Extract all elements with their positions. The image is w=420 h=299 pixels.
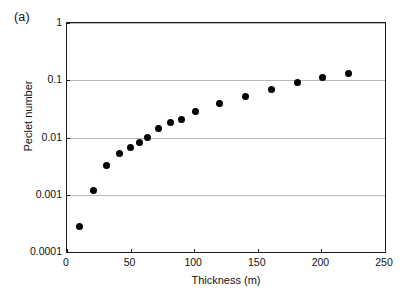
x-tick-label: 0: [63, 256, 69, 268]
gridline: [67, 23, 385, 24]
figure-panel: (a) 0.00010.0010.010.11 050100150200250 …: [0, 0, 420, 299]
gridline: [67, 195, 385, 196]
x-axis-label: Thickness (m): [66, 274, 386, 286]
y-tick-label: 0.01: [42, 131, 62, 143]
data-point: [155, 125, 162, 132]
y-tick-mark: [66, 138, 70, 139]
x-axis-tick-labels: 050100150200250: [66, 256, 386, 272]
x-tick-label: 50: [124, 256, 136, 268]
x-tick-label: 250: [375, 256, 393, 268]
y-tick-mark: [66, 80, 70, 81]
x-tick-label: 200: [312, 256, 330, 268]
y-tick-label: 0.0001: [30, 245, 62, 257]
data-point: [144, 134, 151, 141]
data-point: [116, 150, 123, 157]
y-axis-label: Peclet number: [22, 36, 34, 196]
y-axis-tick-labels: 0.00010.0010.010.11: [6, 22, 62, 253]
data-point: [167, 119, 174, 126]
x-tick-mark: [321, 249, 322, 253]
x-tick-mark: [258, 249, 259, 253]
data-point: [136, 139, 143, 146]
plot-area: [66, 22, 386, 253]
y-tick-mark: [66, 195, 70, 196]
data-point: [90, 187, 97, 194]
data-point: [178, 116, 185, 123]
y-tick-label: 1: [56, 16, 62, 28]
data-point: [294, 79, 301, 86]
data-point: [192, 108, 199, 115]
x-tick-mark: [131, 249, 132, 253]
data-point: [103, 162, 110, 169]
y-tick-label: 0.1: [47, 73, 62, 85]
data-point: [76, 223, 83, 230]
y-tick-mark: [66, 252, 70, 253]
y-tick-mark: [66, 23, 70, 24]
data-point: [216, 100, 223, 107]
gridline: [67, 80, 385, 81]
y-tick-label: 0.001: [36, 188, 62, 200]
data-point: [127, 144, 134, 151]
gridline: [67, 138, 385, 139]
x-tick-mark: [385, 249, 386, 253]
x-tick-label: 100: [184, 256, 202, 268]
x-tick-mark: [194, 249, 195, 253]
data-point: [345, 70, 352, 77]
data-point: [242, 93, 249, 100]
data-point: [268, 86, 275, 93]
x-tick-label: 150: [248, 256, 266, 268]
